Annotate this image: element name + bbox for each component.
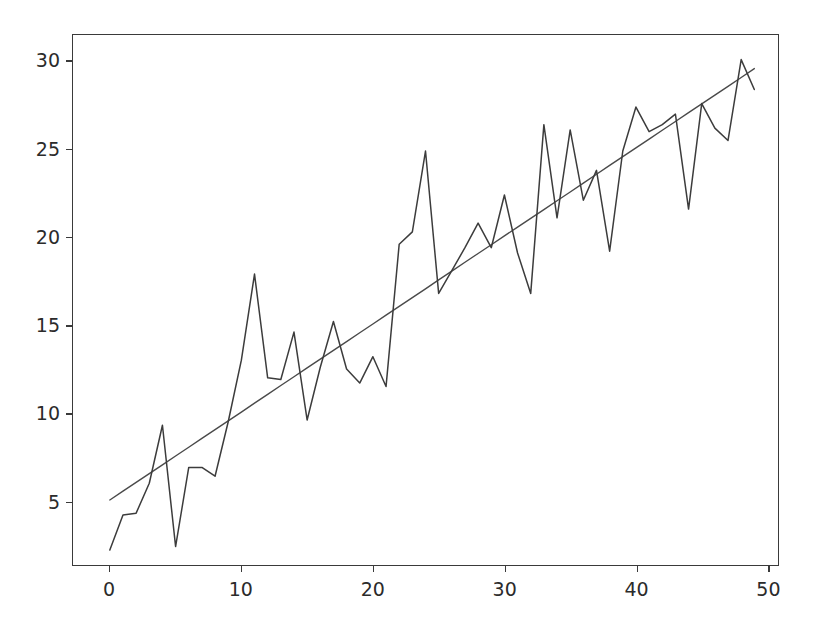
y-tick-label: 5 xyxy=(12,491,60,513)
plot-svg xyxy=(73,35,778,565)
x-tick-label: 40 xyxy=(624,578,648,600)
y-tick-mark xyxy=(66,502,72,503)
y-tick-mark xyxy=(66,149,72,150)
y-tick-label: 15 xyxy=(12,314,60,336)
x-tick-mark xyxy=(768,566,769,572)
y-tick-label: 10 xyxy=(12,402,60,424)
x-tick-mark xyxy=(637,566,638,572)
y-tick-label: 20 xyxy=(12,226,60,248)
y-tick-mark xyxy=(66,60,72,61)
y-tick-label: 25 xyxy=(12,138,60,160)
x-tick-label: 50 xyxy=(756,578,780,600)
x-tick-label: 30 xyxy=(493,578,517,600)
trend-line-path xyxy=(110,69,755,500)
x-tick-label: 10 xyxy=(229,578,253,600)
x-tick-label: 20 xyxy=(361,578,385,600)
x-tick-mark xyxy=(109,566,110,572)
y-tick-mark xyxy=(66,413,72,414)
y-tick-mark xyxy=(66,325,72,326)
y-tick-label: 30 xyxy=(12,49,60,71)
x-tick-mark xyxy=(505,566,506,572)
x-tick-label: 0 xyxy=(103,578,115,600)
y-tick-mark xyxy=(66,237,72,238)
x-tick-mark xyxy=(373,566,374,572)
x-tick-mark xyxy=(241,566,242,572)
plot-area xyxy=(72,34,779,566)
figure-canvas: 51015202530 01020304050 xyxy=(0,0,816,634)
